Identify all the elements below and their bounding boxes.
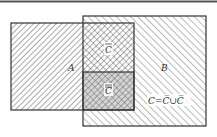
label-c-bar-top: C (105, 45, 112, 55)
label-b: B (160, 63, 168, 73)
venn-rectangles-diagram: A B C C C=C̅∪C̅ (0, 0, 217, 137)
label-c-bar-bottom: C (105, 86, 112, 96)
label-a: A (67, 63, 75, 73)
equation-label: C=C̅∪C̅ (148, 95, 184, 106)
